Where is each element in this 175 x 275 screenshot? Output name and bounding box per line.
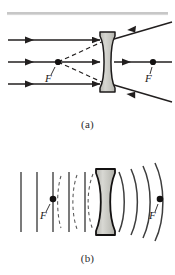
spherical-wavefront-1	[119, 172, 124, 232]
incoming-rays	[8, 37, 100, 88]
spherical-wavefront-2	[131, 169, 137, 235]
outgoing-arrowhead-upper	[127, 26, 136, 33]
spherical-wavefront-3	[143, 166, 150, 238]
diverging-lens-b	[96, 169, 115, 235]
spherical-wavefronts	[119, 163, 163, 241]
outgoing-ray-upper	[114, 22, 172, 39]
focal-label-left-b: F	[39, 209, 47, 221]
focal-label-right-a: F	[144, 72, 152, 84]
focal-label-left-a: F	[44, 72, 52, 84]
ray-arrowhead-bottom	[25, 81, 34, 88]
panel-a-ray-diagram: F F	[0, 0, 175, 118]
diverging-lens-a	[100, 32, 115, 92]
focal-label-right-b: F	[148, 209, 156, 221]
outgoing-arrowhead-middle	[122, 59, 131, 66]
outgoing-ray-lower	[114, 85, 172, 102]
dashed-extension-upper	[58, 41, 104, 62]
panel-b-caption: (b)	[0, 252, 175, 264]
dashed-extension-lower	[58, 62, 104, 83]
optics-figure: F F (a)	[0, 0, 175, 275]
virtual-arc-3	[88, 174, 93, 230]
ray-arrowhead-middle	[25, 59, 34, 66]
outgoing-rays	[114, 22, 172, 102]
panel-b-wavefront-diagram: F F	[0, 150, 175, 255]
virtual-arc-2	[73, 175, 77, 229]
top-rule	[7, 13, 168, 15]
panel-a-caption: (a)	[0, 118, 175, 130]
virtual-wavefront-arcs	[58, 174, 93, 230]
ray-arrowhead-top	[25, 37, 34, 44]
virtual-arc-1	[58, 176, 61, 228]
outgoing-arrowhead-lower	[126, 92, 135, 99]
